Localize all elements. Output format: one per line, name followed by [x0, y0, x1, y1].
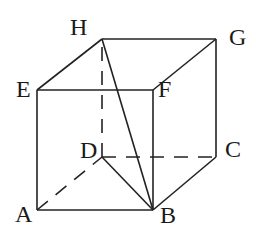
- cube-diagram: H G E F D C A B: [0, 0, 256, 241]
- label-H: H: [70, 14, 87, 40]
- hidden-edge-AD: [37, 157, 102, 210]
- edge-HE: [37, 39, 102, 90]
- label-D: D: [80, 137, 97, 163]
- label-A: A: [15, 201, 33, 227]
- label-G: G: [229, 24, 246, 50]
- label-B: B: [160, 202, 176, 228]
- label-E: E: [16, 76, 31, 102]
- label-F: F: [158, 76, 171, 102]
- label-C: C: [225, 136, 241, 162]
